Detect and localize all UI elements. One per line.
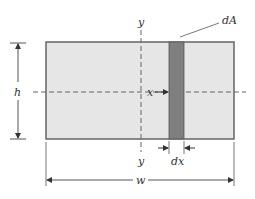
area-diagram: y y x h w dx dA	[0, 0, 255, 199]
w-label: w	[136, 174, 146, 187]
dA-leader-line	[180, 23, 219, 37]
strip-dA	[169, 42, 184, 139]
h-label: h	[14, 86, 21, 99]
dA-label: dA	[222, 14, 237, 27]
cross-section-rectangle	[46, 42, 234, 139]
dx-label: dx	[171, 155, 185, 168]
x-label: x	[147, 86, 154, 99]
y-axis-label-bottom: y	[137, 155, 145, 168]
y-axis-label-top: y	[137, 16, 145, 29]
